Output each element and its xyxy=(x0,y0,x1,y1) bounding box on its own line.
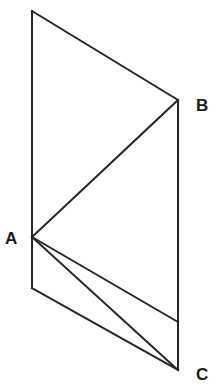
vertex-label-b: B xyxy=(196,96,208,115)
geometry-figure-canvas: A B C xyxy=(0,0,217,387)
edge-b-to-a-fold xyxy=(32,100,178,237)
vertex-label-c: C xyxy=(196,365,208,384)
edge-top xyxy=(32,11,178,100)
edge-a-to-right-mid xyxy=(32,237,178,322)
edge-bottom-left-to-c xyxy=(32,288,178,370)
geometry-diagram: A B C xyxy=(0,0,217,387)
edge-a-to-c xyxy=(32,237,178,370)
vertex-label-a: A xyxy=(5,229,17,248)
